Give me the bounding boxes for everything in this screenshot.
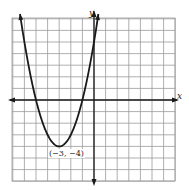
x-axis-label: x	[177, 91, 182, 101]
axes	[8, 10, 179, 186]
y-axis-label: y	[89, 8, 94, 18]
graph-canvas	[0, 0, 189, 190]
vertex-label: (−3, −4)	[48, 149, 85, 158]
